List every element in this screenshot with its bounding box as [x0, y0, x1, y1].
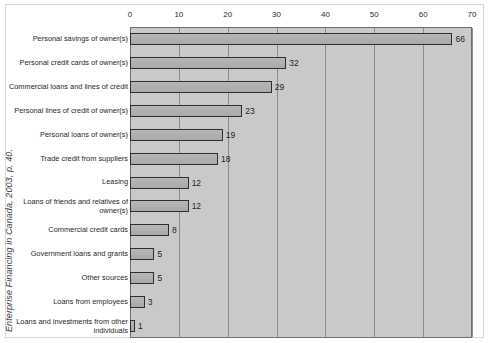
bar — [130, 105, 242, 117]
bar-value-label: 29 — [275, 82, 284, 92]
bar-value-label: 5 — [157, 273, 162, 283]
bar-value-label: 19 — [226, 130, 235, 140]
x-tick-label: 50 — [370, 10, 379, 19]
bar — [130, 153, 218, 165]
x-tick-label: 0 — [128, 10, 132, 19]
x-tick-label: 70 — [468, 10, 477, 19]
category-label: Personal savings of owner(s) — [8, 34, 128, 44]
bar — [130, 33, 452, 45]
bar-row: Commercial credit cards — [0, 218, 489, 242]
category-label: Commercial loans and lines of credit — [8, 82, 128, 92]
bar — [130, 296, 145, 308]
x-tick-label: 60 — [419, 10, 428, 19]
bar-value-label: 23 — [245, 106, 254, 116]
bar-value-label: 8 — [172, 225, 177, 235]
bar-value-label: 1 — [138, 321, 143, 331]
category-label: Loans of friends and relatives of owner(… — [8, 197, 128, 216]
bar-row: Trade credit from suppliers — [0, 147, 489, 171]
bar-value-label: 66 — [455, 34, 464, 44]
bar — [130, 57, 286, 69]
bar-chart: Enterprise Financing in Canada, 2003, p.… — [0, 0, 489, 343]
bar-row: Government loans and grants — [0, 242, 489, 266]
bar — [130, 224, 169, 236]
x-tick-label: 30 — [272, 10, 281, 19]
category-label: Leasing — [8, 177, 128, 187]
bar-value-label: 18 — [221, 154, 230, 164]
x-axis-tick-labels: 010203040506070 — [0, 10, 489, 24]
bar-row: Leasing — [0, 171, 489, 195]
bar — [130, 272, 154, 284]
x-tick-label: 20 — [223, 10, 232, 19]
x-tick-label: 40 — [321, 10, 330, 19]
category-label: Commercial credit cards — [8, 225, 128, 235]
category-label: Loans and investments from other individ… — [8, 317, 128, 336]
category-label: Trade credit from suppliers — [8, 154, 128, 164]
bar-value-label: 12 — [192, 201, 201, 211]
category-label: Other sources — [8, 273, 128, 283]
bar — [130, 81, 272, 93]
category-label: Loans from employees — [8, 297, 128, 307]
bar — [130, 200, 189, 212]
category-label: Government loans and grants — [8, 249, 128, 259]
bar-value-label: 5 — [157, 249, 162, 259]
bar-row: Loans and investments from other individ… — [0, 314, 489, 338]
bar — [130, 177, 189, 189]
category-label: Personal lines of credit of owner(s) — [8, 106, 128, 116]
bar-row: Personal loans of owner(s) — [0, 123, 489, 147]
bar — [130, 129, 223, 141]
bar — [130, 248, 154, 260]
category-label: Personal credit cards of owner(s) — [8, 58, 128, 68]
x-tick-label: 10 — [174, 10, 183, 19]
bar-value-label: 12 — [192, 178, 201, 188]
bar — [130, 320, 135, 332]
category-label: Personal loans of owner(s) — [8, 130, 128, 140]
bar-row: Loans of friends and relatives of owner(… — [0, 194, 489, 218]
bar-value-label: 3 — [148, 297, 153, 307]
bar-row: Other sources — [0, 266, 489, 290]
bar-row: Loans from employees — [0, 290, 489, 314]
bar-value-label: 32 — [289, 58, 298, 68]
